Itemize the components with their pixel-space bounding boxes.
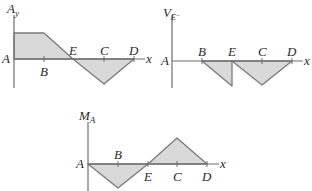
ve-point-e: E	[227, 44, 236, 59]
ay-point-c: C	[100, 43, 109, 58]
ma-axis-label: MA	[78, 108, 96, 125]
ma-point-e: E	[143, 169, 152, 184]
ve-x-label: x	[303, 53, 310, 68]
influence-lines-figure: Ay A B E C D x VE⁻ A B E C D x	[0, 0, 312, 191]
ay-point-b: B	[40, 64, 48, 79]
ma-point-b: B	[114, 147, 122, 162]
ma-negative-region	[88, 164, 148, 188]
diagram-ve: VE⁻ A B E C D x	[160, 5, 310, 88]
diagram-ay: Ay A B E C D x	[1, 1, 152, 88]
ve-point-b: B	[198, 44, 206, 59]
ma-point-c: C	[173, 169, 182, 184]
ma-x-label: x	[219, 156, 226, 171]
ma-point-d: D	[201, 169, 212, 184]
ay-axis-label: Ay	[6, 1, 19, 18]
ay-negative-region	[73, 59, 134, 84]
diagram-ma: MA A B E C D x	[75, 108, 226, 191]
ve-origin-label: A	[160, 53, 169, 68]
ve-point-c: C	[258, 44, 267, 59]
ay-positive-region	[14, 33, 73, 59]
ay-x-label: x	[145, 51, 152, 66]
ma-origin-label: A	[75, 156, 84, 171]
ve-first-negative-region	[202, 61, 232, 86]
ve-second-negative-region	[232, 61, 292, 85]
ay-point-d: D	[128, 43, 139, 58]
ay-origin-label: A	[1, 51, 10, 66]
ma-positive-region	[148, 138, 207, 164]
ve-point-d: D	[286, 44, 297, 59]
ay-point-e: E	[68, 43, 77, 58]
ve-axis-label: VE⁻	[163, 5, 180, 22]
